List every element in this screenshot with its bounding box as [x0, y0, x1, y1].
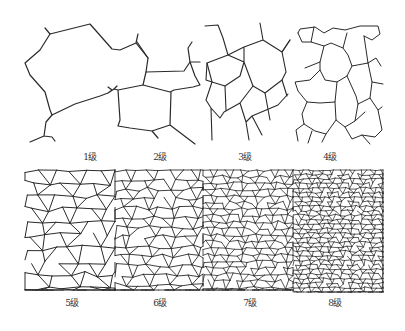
grain-size-diagram	[0, 0, 405, 331]
panel-grade-1	[25, 24, 148, 142]
panel-grade-4	[295, 26, 383, 144]
label-grade-7: 7级	[243, 296, 257, 309]
panel-grade-2	[114, 42, 200, 144]
label-grade-3: 3级	[238, 150, 252, 163]
panel-grade-6	[115, 170, 203, 290]
label-grade-1: 1级	[83, 150, 97, 163]
label-grade-5: 5级	[65, 296, 79, 309]
panel-grade-7	[203, 170, 293, 290]
label-grade-2: 2级	[153, 150, 167, 163]
panel-grade-3	[205, 23, 290, 140]
panel-grade-8	[293, 170, 383, 292]
label-grade-4: 4级	[323, 150, 337, 163]
panel-grade-5	[25, 170, 115, 290]
generated-grain-panels	[25, 170, 383, 292]
label-grade-8: 8级	[328, 296, 342, 309]
label-grade-6: 6级	[153, 296, 167, 309]
